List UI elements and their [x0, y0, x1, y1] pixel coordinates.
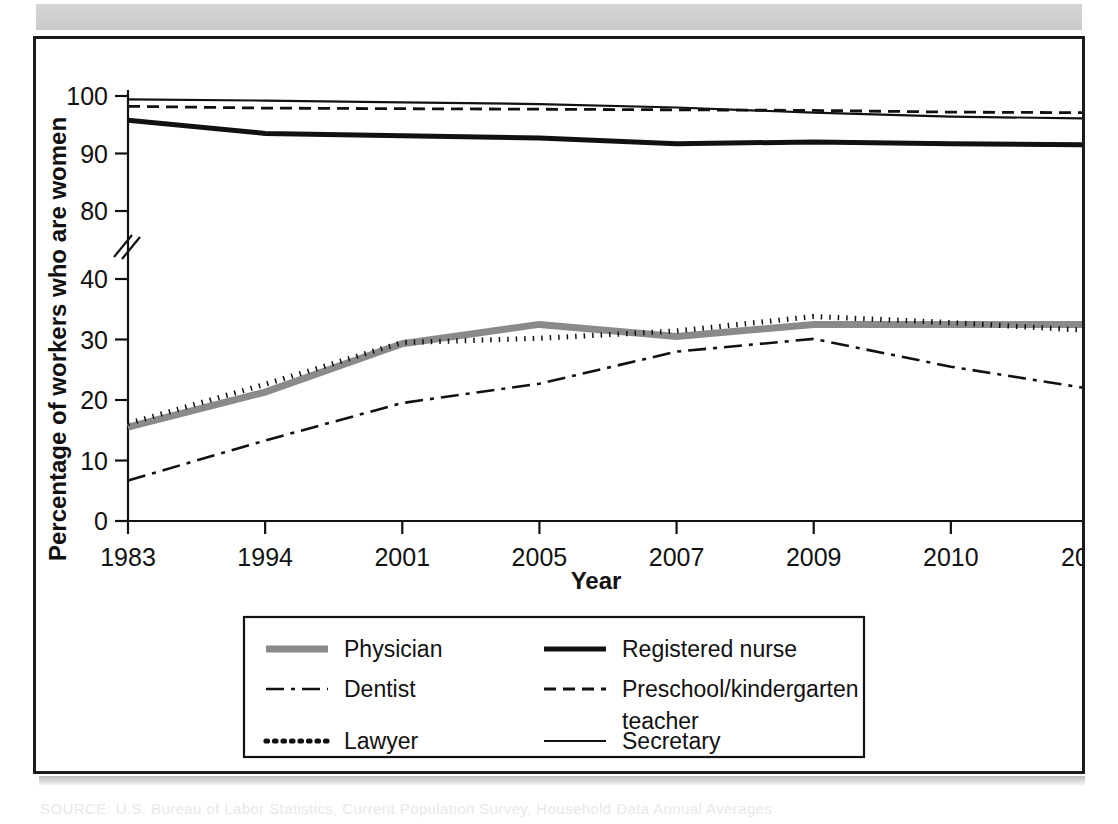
y-tick-label: 10: [80, 447, 108, 475]
x-tick-label: 2005: [512, 543, 568, 571]
legend-label: Physician: [344, 636, 442, 662]
legend-label: Secretary: [622, 728, 721, 754]
x-tick-label: 2009: [786, 543, 842, 571]
y-tick-label: 80: [80, 197, 108, 225]
line-chart: 0102030408090100 19831994200120052007200…: [36, 39, 1082, 771]
x-tick-label: 2010: [923, 543, 979, 571]
figure-caption: SOURCE: U.S. Bureau of Labor Statistics,…: [40, 800, 1080, 822]
legend-label: Dentist: [344, 676, 416, 702]
y-tick-label: 40: [80, 265, 108, 293]
series-line: [128, 120, 1082, 145]
y-tick-label: 0: [94, 507, 108, 535]
y-tick-label: 90: [80, 140, 108, 168]
page-top-band: [36, 4, 1082, 30]
series-layer: [128, 99, 1082, 480]
x-tick-label: 2011: [1061, 543, 1082, 571]
legend-label: Registered nurse: [622, 636, 797, 662]
x-tick-label: 1994: [237, 543, 293, 571]
legend[interactable]: PhysicianRegistered nurseDentistPreschoo…: [244, 617, 864, 757]
legend-label: Preschool/kindergarten: [622, 676, 859, 702]
series-line: [128, 324, 1082, 427]
x-tick-label: 2007: [649, 543, 705, 571]
series-line: [128, 339, 1082, 481]
x-axis-title: Year: [571, 567, 622, 594]
y-axis-title: Percentage of workers who are women: [44, 117, 71, 561]
y-tick-label: 30: [80, 326, 108, 354]
y-tick-label: 100: [66, 82, 108, 110]
x-tick-label: 1983: [100, 543, 156, 571]
legend-label: Lawyer: [344, 728, 418, 754]
series-line: [128, 106, 1082, 112]
x-tick-label: 2001: [374, 543, 430, 571]
figure-shadow: [39, 776, 1085, 785]
y-tick-label: 20: [80, 386, 108, 414]
y-axis: 0102030408090100: [66, 82, 128, 535]
figure-frame: 0102030408090100 19831994200120052007200…: [33, 36, 1085, 774]
